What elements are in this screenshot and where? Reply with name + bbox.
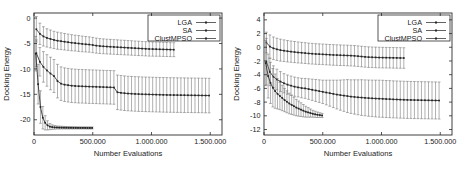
data-point [81,85,83,87]
data-point [364,97,366,99]
data-point [145,93,147,95]
x-tick-label: 1.500.000 [194,137,226,146]
data-point [417,99,419,101]
data-point [201,95,203,97]
x-tick-label: 500.000 [80,137,106,146]
data-point [134,47,136,49]
y-tick-label: -2 [254,57,260,66]
data-point [64,84,66,86]
data-point [361,56,363,58]
data-point [138,48,140,50]
data-point [364,56,366,58]
x-tick-label: 1.500.000 [424,137,456,146]
data-point [95,45,97,47]
data-point [290,51,292,53]
data-point [37,83,39,85]
data-point [173,49,175,51]
data-point [357,55,359,57]
y-tick-label: -5 [24,39,30,48]
data-point [194,95,196,97]
data-point [89,127,91,129]
data-point [78,85,80,87]
data-point [43,36,45,38]
data-point [295,107,297,109]
data-point [35,53,37,55]
data-point [312,113,314,115]
data-point [131,93,133,95]
data-point [42,117,44,119]
data-point [141,48,143,50]
data-point [410,99,412,101]
data-point [340,94,342,96]
data-point [87,127,89,129]
data-point [325,54,327,56]
data-point [80,127,82,129]
data-point [113,87,115,89]
data-point [78,43,80,45]
data-point [318,90,320,92]
figure-two-panel-docking-energy: 0500.0001.000.0001.500.0000-5-10-15-20Nu… [0,0,460,172]
data-point [329,92,331,94]
data-point [291,104,293,106]
data-point [63,127,65,129]
data-point [92,86,94,88]
data-point [127,47,129,49]
data-point [300,109,302,111]
data-point [288,103,290,105]
data-point [389,98,391,100]
data-point [314,113,316,115]
data-point [332,54,334,56]
data-point [43,66,45,68]
data-point [270,82,272,84]
data-point [113,46,115,48]
plot-frame [34,13,222,135]
data-point [407,99,409,101]
plot-frame [264,13,452,135]
data-point [77,127,79,129]
data-point [332,93,334,95]
data-point [315,53,317,55]
data-point [382,98,384,100]
x-axis-title: Number Evaluations [94,149,163,158]
data-point [272,87,274,89]
data-point [392,99,394,101]
data-point [303,110,305,112]
data-point [148,48,150,50]
legend-sample-marker [435,38,437,40]
y-tick-label: -12 [250,125,260,134]
x-tick-label: 500.000 [310,137,336,146]
data-point [180,94,182,96]
data-point [396,99,398,101]
data-point [274,90,276,92]
data-point [84,127,86,129]
data-point [131,47,133,49]
data-point [317,114,319,116]
data-point [162,94,164,96]
data-point [276,48,278,50]
y-tick-label: -15 [20,90,30,99]
data-point [396,57,398,59]
data-point [385,57,387,59]
data-point [311,89,313,91]
data-point [279,95,281,97]
data-point [350,55,352,57]
data-point [54,127,56,129]
data-point [301,52,303,54]
data-point [308,53,310,55]
data-point [283,50,285,52]
data-point [414,99,416,101]
data-point [329,54,331,56]
data-point [65,127,67,129]
data-point [39,33,41,35]
data-point [368,97,370,99]
data-point [148,94,150,96]
data-point [120,92,122,94]
data-point [50,73,52,75]
data-point [60,83,62,85]
legend-label-clustmpso: ClustMPSO [384,34,422,43]
data-point [294,51,296,53]
data-point [290,85,292,87]
data-point [375,98,377,100]
legend-sample-marker [435,22,437,24]
data-point [56,127,58,129]
